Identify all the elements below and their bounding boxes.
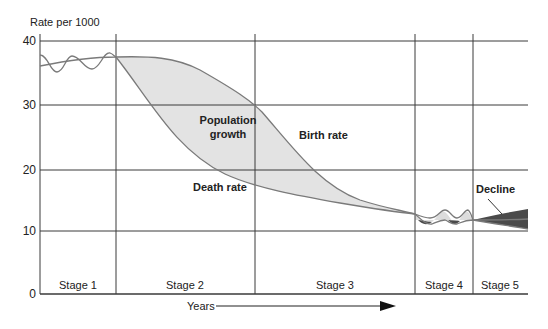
stage-3-label: Stage 3	[316, 279, 354, 291]
tick-0: 0	[29, 287, 36, 301]
stage-5-label: Stage 5	[481, 279, 519, 291]
birth-rate-line	[40, 57, 528, 220]
birth-rate-label: Birth rate	[299, 129, 348, 141]
population-label-line1: Population	[200, 114, 257, 126]
tick-20: 20	[23, 163, 37, 177]
x-axis-label: Years	[187, 300, 215, 312]
death-rate-label: Death rate	[193, 181, 247, 193]
stage-1-label: Stage 1	[59, 279, 97, 291]
tick-10: 10	[23, 224, 37, 238]
y-ticks: 40 30 20 10 0	[23, 34, 37, 301]
y-axis-label: Rate per 1000	[30, 16, 100, 28]
stage-labels: Stage 1 Stage 2 Stage 3 Stage 4 Stage 5	[59, 279, 519, 291]
tick-40: 40	[23, 34, 37, 48]
population-growth-area	[116, 57, 415, 214]
years-arrow-head-icon	[380, 301, 396, 311]
decline-label: Decline	[476, 183, 515, 195]
stage-2-label: Stage 2	[166, 279, 204, 291]
demographic-transition-chart: Rate per 1000 40 30 20 10 0 Population g…	[0, 0, 548, 329]
stage-4-label: Stage 4	[425, 279, 463, 291]
population-label-line2: growth	[210, 128, 247, 140]
tick-30: 30	[23, 98, 37, 112]
grid-horizontal	[40, 41, 528, 231]
decline-pointer	[488, 199, 502, 214]
